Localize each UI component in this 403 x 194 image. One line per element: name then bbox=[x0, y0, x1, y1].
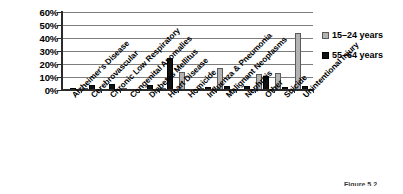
x-axis-tick-mark bbox=[178, 89, 179, 93]
x-axis-tick-mark bbox=[81, 89, 82, 93]
y-axis-tick-label: 60% bbox=[18, 8, 58, 18]
x-axis-tick-mark bbox=[120, 89, 121, 93]
legend: 15–24 years55–64 years bbox=[322, 31, 402, 71]
x-axis-tick-mark bbox=[197, 89, 198, 93]
x-axis-tick-mark bbox=[159, 89, 160, 93]
x-axis-tick-mark bbox=[255, 89, 256, 93]
x-axis-tick-mark bbox=[294, 89, 295, 93]
legend-swatch-icon bbox=[322, 32, 329, 39]
y-axis-tick-mark bbox=[57, 77, 62, 78]
legend-item: 55–64 years bbox=[322, 51, 402, 60]
figure-caption: Figure 5.2 bbox=[344, 181, 377, 186]
legend-item: 15–24 years bbox=[322, 31, 402, 40]
x-axis-tick-mark bbox=[313, 89, 314, 93]
x-axis-tick-mark bbox=[101, 89, 102, 93]
y-axis-tick-label: 10% bbox=[18, 73, 58, 83]
y-axis-tick-mark bbox=[57, 51, 62, 52]
y-axis-tick-mark bbox=[57, 64, 62, 65]
x-axis-tick-mark bbox=[274, 89, 275, 93]
chart-figure: 60%50%40%30%20%10%0% Alzheimer's Disease… bbox=[0, 0, 403, 194]
legend-swatch-icon bbox=[322, 52, 329, 59]
x-axis-tick-mark bbox=[139, 89, 140, 93]
y-axis-tick-label: 40% bbox=[18, 34, 58, 44]
legend-label: 15–24 years bbox=[332, 31, 383, 40]
y-axis-tick-label: 30% bbox=[18, 47, 58, 57]
x-axis-labels: Alzheimer's DiseaseCerebrovascularChroni… bbox=[0, 92, 330, 192]
y-axis-tick-mark bbox=[57, 90, 62, 91]
y-axis-tick-mark bbox=[57, 38, 62, 39]
y-axis-tick-mark bbox=[57, 25, 62, 26]
x-axis-tick-mark bbox=[236, 89, 237, 93]
x-axis-tick-mark bbox=[216, 89, 217, 93]
y-axis-tick-label: 20% bbox=[18, 60, 58, 70]
y-axis-tick-mark bbox=[57, 12, 62, 13]
y-axis-tick-label: 50% bbox=[18, 21, 58, 31]
legend-label: 55–64 years bbox=[332, 51, 383, 60]
bar-group bbox=[62, 12, 81, 90]
